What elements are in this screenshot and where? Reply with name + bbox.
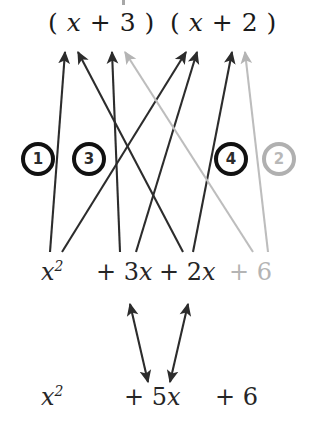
result-term-5x-operator: +: [124, 383, 144, 411]
result-term-5x: + 5x: [124, 383, 181, 411]
result-term-6-coefficient: 6: [243, 383, 258, 411]
expanded-term-2x: + 2x: [159, 258, 216, 286]
stray-mark: [122, 0, 125, 5]
expanded-term-3x-var: x: [139, 258, 153, 286]
expanded-term-2x-operator: +: [159, 258, 179, 286]
factor-right-constant: 2: [242, 8, 258, 37]
result-term-6: + 6: [215, 383, 258, 411]
result-term-x-squared-exponent: 2: [55, 383, 64, 399]
expanded-term-6-coefficient: 6: [257, 258, 272, 286]
result-term-5x-var: x: [167, 383, 181, 411]
badge-step-3-label: 3: [84, 150, 94, 168]
expanded-term-x-squared-exponent: 2: [55, 258, 64, 274]
badge-step-3: 3: [72, 142, 106, 176]
factor-left-constant: 3: [120, 8, 136, 37]
badge-step-2: 2: [262, 142, 296, 176]
result-term-5x-coefficient: 5: [152, 383, 167, 411]
result-term-6-operator: +: [215, 383, 235, 411]
arrow-layer: [0, 0, 312, 422]
arrow-3x-to-5x: [130, 304, 148, 382]
expanded-term-x-squared-var: x: [41, 258, 55, 286]
arrow-3x-to-left-3: [112, 52, 120, 252]
factor-right-operator: +: [212, 8, 233, 37]
badge-step-4-label: 4: [226, 150, 236, 168]
arrow-3x-to-right-x: [136, 52, 197, 252]
expanded-term-3x-coefficient: 3: [124, 258, 139, 286]
expanded-term-3x: + 3x: [96, 258, 153, 286]
result-term-x-squared: x2: [41, 383, 63, 411]
expanded-term-3x-operator: +: [96, 258, 116, 286]
factor-left-close: ): [145, 8, 155, 37]
factor-right-close: ): [267, 8, 277, 37]
factor-left-variable: x: [67, 8, 82, 37]
result-term-x-squared-var: x: [41, 383, 55, 411]
expanded-term-2x-coefficient: 2: [187, 258, 202, 286]
expanded-term-x-squared: x2: [41, 258, 63, 286]
badge-step-1: 1: [21, 142, 55, 176]
badge-step-1-label: 1: [33, 150, 43, 168]
expanded-term-2x-var: x: [202, 258, 216, 286]
arrow-2x-to-5x: [170, 304, 188, 382]
foil-diagram-canvas: ( x + 3 ) ( x + 2 ) 1 3 4 2 x2 + 3x + 2x…: [0, 0, 312, 422]
factor-right-variable: x: [189, 8, 204, 37]
factor-left-open: (: [48, 8, 58, 37]
factor-right: ( x + 2 ): [170, 8, 277, 37]
badge-step-2-label: 2: [274, 150, 284, 168]
badge-step-4: 4: [214, 142, 248, 176]
factor-left-operator: +: [90, 8, 111, 37]
factor-right-open: (: [170, 8, 180, 37]
expanded-term-6-operator: +: [229, 258, 249, 286]
factor-left: ( x + 3 ): [48, 8, 155, 37]
expanded-term-6: + 6: [229, 258, 272, 286]
